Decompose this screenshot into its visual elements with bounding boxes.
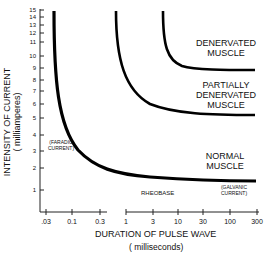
- y-tick-5: 5: [22, 115, 36, 121]
- y-tick-12: 12: [22, 30, 36, 36]
- faradic-current-annotation: (FARADIC CURRENT): [45, 139, 77, 151]
- x-tick-10: 10: [168, 218, 188, 226]
- x-tick-300: 300: [247, 218, 267, 226]
- y-tick-9: 9: [22, 65, 36, 71]
- denervated-label-line2: MUSCLE: [191, 48, 261, 58]
- x-axis-label: DURATION OF PULSE WAVE: [95, 229, 216, 239]
- denervated-muscle-label: DENERVATED MUSCLE: [191, 38, 261, 58]
- partially-denervated-muscle-label: PARTIALLY DENERVATED MUSCLE: [191, 80, 261, 110]
- y-axis-title: INTENSITY OF CURRENT ( milliamperes): [2, 52, 22, 192]
- y-axis-unit: ( milliamperes): [12, 52, 22, 192]
- denervated-label-line1: DENERVATED: [191, 38, 261, 48]
- partial-label-line2: DENERVATED: [191, 90, 261, 100]
- y-tick-2: 2: [22, 165, 36, 171]
- y-tick-13: 13: [22, 22, 36, 28]
- y-tick-15: 15: [22, 7, 36, 13]
- x-tick-30: 30: [193, 218, 213, 226]
- normal-label-line1: NORMAL: [198, 151, 252, 161]
- normal-muscle-label: NORMAL MUSCLE: [198, 151, 252, 171]
- y-tick-10: 10: [22, 53, 36, 59]
- normal-label-line2: MUSCLE: [198, 161, 252, 171]
- y-tick-4: 4: [22, 132, 36, 138]
- y-tick-14: 14: [22, 14, 36, 20]
- y-axis-ticks: [40, 10, 44, 190]
- x-axis-unit: ( milliseconds): [129, 242, 183, 252]
- rheobase-annotation: RHEOBASE: [141, 190, 174, 196]
- y-tick-8: 8: [22, 77, 36, 83]
- y-tick-1: 1: [22, 187, 36, 193]
- galvanic-line2: CURRENT): [212, 190, 256, 196]
- y-tick-6: 6: [22, 101, 36, 107]
- y-tick-3: 3: [22, 148, 36, 154]
- x-tick-3: 3: [143, 218, 163, 226]
- faradic-line2: CURRENT): [45, 145, 77, 151]
- x-tick-0.1: 0.1: [62, 218, 82, 226]
- y-axis-label: INTENSITY OF CURRENT: [2, 52, 12, 192]
- x-tick-0.3: 0.3: [90, 218, 110, 226]
- partial-label-line1: PARTIALLY: [191, 80, 261, 90]
- x-tick-100: 100: [220, 218, 240, 226]
- galvanic-current-annotation: (GALVANIC CURRENT): [212, 184, 256, 196]
- x-tick-0.03: .03: [36, 218, 56, 226]
- partial-label-line3: MUSCLE: [191, 100, 261, 110]
- y-tick-11: 11: [22, 39, 36, 45]
- y-tick-7: 7: [22, 88, 36, 94]
- x-tick-1: 1: [116, 218, 136, 226]
